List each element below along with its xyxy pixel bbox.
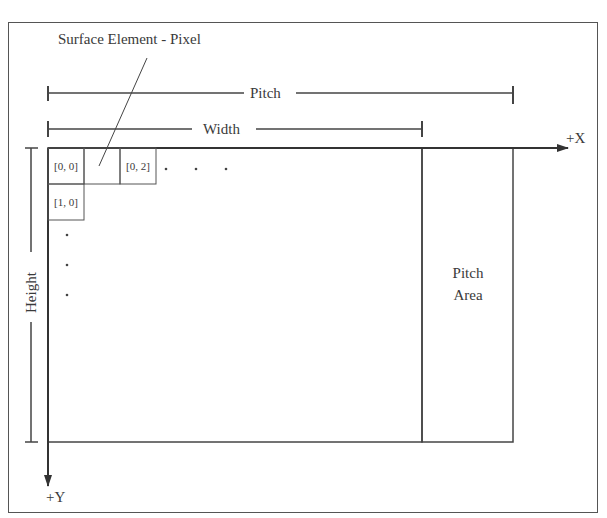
row-ellipsis <box>165 168 228 171</box>
width-dimension: Width <box>48 121 422 137</box>
surface-area <box>48 148 422 442</box>
y-axis-label: +Y <box>46 489 65 505</box>
pixel-cell-0-1 <box>84 148 120 184</box>
svg-text:[0, 2]: [0, 2] <box>126 160 150 172</box>
x-axis-label: +X <box>566 130 585 146</box>
outer-frame <box>9 23 598 513</box>
svg-text:[0, 0]: [0, 0] <box>54 160 78 172</box>
surface-element-label: Surface Element - Pixel <box>58 31 201 47</box>
surface-pixel-layout-diagram: Surface Element - Pixel Pitch Width Heig… <box>0 0 607 518</box>
height-dimension-label: Height <box>23 271 39 313</box>
pitch-dimension-label: Pitch <box>250 85 281 101</box>
height-dimension: Height <box>23 148 39 442</box>
callout-leader-line <box>99 58 147 166</box>
width-dimension-label: Width <box>203 121 240 137</box>
column-ellipsis <box>66 234 69 297</box>
pitch-area-label-line1: Pitch <box>453 265 484 281</box>
svg-text:[1, 0]: [1, 0] <box>54 196 78 208</box>
pitch-dimension: Pitch <box>48 85 513 104</box>
pitch-area-label-line2: Area <box>453 287 482 303</box>
